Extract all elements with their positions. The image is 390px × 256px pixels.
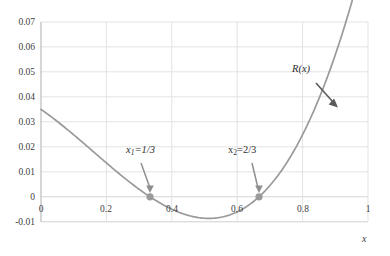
y-tick-label-0.07: 0.07 [1,18,35,28]
y-tick-label-0.02: 0.02 [1,143,35,153]
x-axis-title: x [362,234,366,244]
x-tick-label-0.4: 0.4 [159,205,185,215]
x-tick-label-0: 0 [28,205,54,215]
y-tick-label--0.01: -0.01 [1,218,35,228]
x-tick-label-1: 1 [355,205,381,215]
x1-root-annotation: x1=1/3 [126,145,155,157]
y-tick-label-0.06: 0.06 [1,43,35,53]
y-tick-label-0.05: 0.05 [1,68,35,78]
x-tick-label-0.6: 0.6 [224,205,250,215]
y-tick-label-0.04: 0.04 [1,93,35,103]
x1-label-rest: =1/3 [134,144,155,155]
y-tick-label-0.01: 0.01 [1,168,35,178]
y-tick-label-0.03: 0.03 [1,118,35,128]
curve-annotation: R(x) [292,64,310,75]
y-tick-label-0: 0 [1,193,35,203]
plot-canvas [0,0,390,256]
marker-x1 [146,193,153,200]
x-tick-label-0.2: 0.2 [93,205,119,215]
x2-label-rest: =2/3 [237,144,256,155]
chart-figure: 0.07 0.06 0.05 0.04 0.03 0.02 0.01 0 -0.… [0,0,390,256]
marker-x2 [255,193,262,200]
x2-root-annotation: x2=2/3 [228,145,256,157]
x-tick-label-0.8: 0.8 [290,205,316,215]
